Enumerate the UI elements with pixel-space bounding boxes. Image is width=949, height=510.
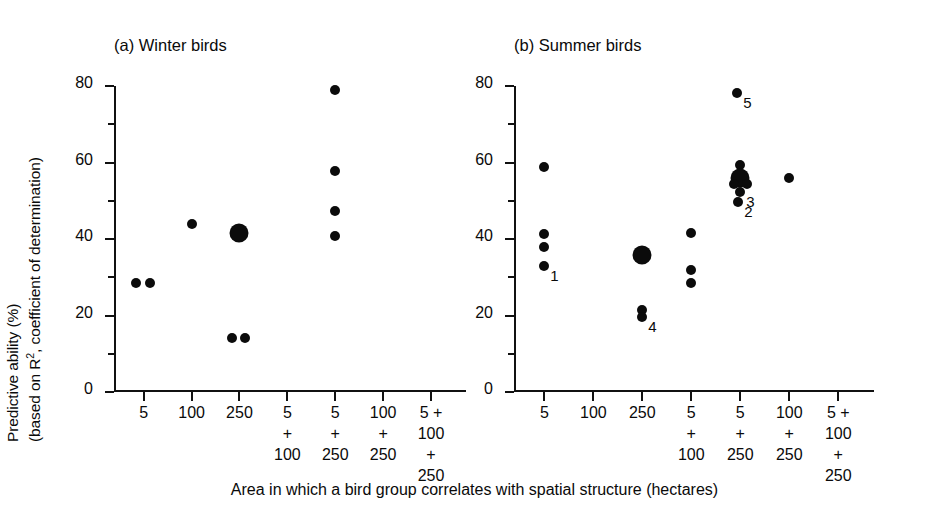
x-tick-winter-250 bbox=[238, 392, 240, 401]
x-tick-winter-5+100+250 bbox=[430, 392, 432, 401]
x-tick-label-line: 5 bbox=[678, 402, 705, 423]
x-tick-label-line: 250 bbox=[727, 444, 754, 465]
y-tick-winter-80: 80 bbox=[105, 85, 114, 87]
y-axis-line-summer bbox=[514, 86, 516, 392]
y-tick-summer-60: 60 bbox=[505, 162, 514, 164]
y-tick-minor-winter-50 bbox=[108, 200, 114, 202]
y-tick-winter-60: 60 bbox=[105, 162, 114, 164]
data-point bbox=[637, 312, 647, 322]
data-point-label: 4 bbox=[648, 319, 656, 334]
data-point bbox=[330, 206, 340, 216]
data-point-label: 5 bbox=[743, 94, 751, 109]
data-point bbox=[539, 242, 549, 252]
data-point bbox=[131, 278, 141, 288]
data-point bbox=[240, 333, 250, 343]
y-tick-minor-summer-10 bbox=[508, 353, 514, 355]
x-tick-summer-5 bbox=[543, 392, 545, 401]
data-point bbox=[145, 278, 155, 288]
x-tick-label-line: 5 bbox=[727, 402, 754, 423]
x-tick-label-line: 250 bbox=[776, 444, 803, 465]
x-tick-summer-5+250 bbox=[739, 392, 741, 401]
x-tick-label-line: + bbox=[678, 423, 705, 444]
data-point bbox=[784, 173, 794, 183]
x-tick-label-line: + bbox=[825, 444, 852, 465]
x-tick-winter-5 bbox=[143, 392, 145, 401]
data-point bbox=[539, 162, 549, 172]
x-tick-label-summer-100+250: 100+250 bbox=[776, 402, 803, 465]
x-tick-label-line: + bbox=[370, 423, 397, 444]
y-tick-label-winter-20: 20 bbox=[75, 305, 93, 321]
y-tick-summer-20: 20 bbox=[505, 315, 514, 317]
x-tick-label-line: + bbox=[727, 423, 754, 444]
x-tick-label-line: + bbox=[776, 423, 803, 444]
y-tick-label-winter-40: 40 bbox=[75, 228, 93, 244]
x-tick-label-line: 100 bbox=[825, 423, 852, 444]
x-tick-winter-5+100 bbox=[286, 392, 288, 401]
y-tick-label-summer-0: 0 bbox=[484, 381, 493, 397]
y-tick-minor-winter-10 bbox=[108, 353, 114, 355]
x-axis-line-winter bbox=[114, 390, 466, 392]
data-point bbox=[227, 333, 237, 343]
data-point bbox=[686, 265, 696, 275]
x-tick-label-line: 100 bbox=[580, 402, 607, 423]
x-tick-winter-100 bbox=[191, 392, 193, 401]
plot-area-winter: 02040608051002505+1005+250100+2505 +100+… bbox=[114, 86, 466, 392]
data-point bbox=[539, 261, 549, 271]
y-tick-winter-40: 40 bbox=[105, 238, 114, 240]
x-tick-label-line: 100 bbox=[370, 402, 397, 423]
x-tick-winter-100+250 bbox=[382, 392, 384, 401]
y-axis-title-line2-pre: (based on R bbox=[26, 359, 43, 442]
x-tick-label-line: 100 bbox=[418, 423, 445, 444]
x-tick-label-winter-100+250: 100+250 bbox=[370, 402, 397, 465]
y-tick-minor-summer-50 bbox=[508, 200, 514, 202]
y-tick-label-winter-0: 0 bbox=[84, 381, 93, 397]
x-tick-label-winter-5+100: 5+100 bbox=[274, 402, 301, 465]
x-tick-label-line: 250 bbox=[629, 402, 656, 423]
x-tick-label-line: 5 + bbox=[418, 402, 445, 423]
y-tick-winter-0: 0 bbox=[105, 391, 114, 393]
y-tick-minor-summer-30 bbox=[508, 276, 514, 278]
y-axis-title-line1: Predictive ability (%) bbox=[4, 12, 22, 442]
x-tick-label-summer-5+100: 5+100 bbox=[678, 402, 705, 465]
data-point bbox=[733, 197, 743, 207]
x-tick-summer-5+100+250 bbox=[837, 392, 839, 401]
data-point bbox=[686, 228, 696, 238]
plot-area-summer: 02040608051002505+1005+250100+2505 +100+… bbox=[514, 86, 874, 392]
data-point bbox=[330, 166, 340, 176]
x-tick-label-line: 100 bbox=[274, 444, 301, 465]
y-axis-title-line2: (based on R2, coefficient of determinati… bbox=[26, 12, 44, 442]
x-tick-label-line: 250 bbox=[322, 444, 349, 465]
figure-root: Predictive ability (%) (based on R2, coe… bbox=[0, 0, 949, 510]
y-tick-summer-0: 0 bbox=[505, 391, 514, 393]
data-point bbox=[539, 229, 549, 239]
data-point bbox=[187, 219, 197, 229]
x-tick-label-line: 5 bbox=[322, 402, 349, 423]
y-tick-minor-winter-30 bbox=[108, 276, 114, 278]
data-point bbox=[633, 246, 652, 265]
x-tick-label-line: 250 bbox=[370, 444, 397, 465]
y-tick-summer-80: 80 bbox=[505, 85, 514, 87]
x-tick-label-summer-5: 5 bbox=[540, 402, 549, 423]
x-axis-caption: Area in which a bird group correlates wi… bbox=[0, 481, 949, 499]
y-tick-label-summer-80: 80 bbox=[475, 75, 493, 91]
x-tick-summer-100+250 bbox=[788, 392, 790, 401]
data-point bbox=[742, 179, 752, 189]
data-point bbox=[686, 278, 696, 288]
x-tick-label-summer-5+100+250: 5 +100+250 bbox=[825, 402, 852, 486]
x-tick-label-summer-250: 250 bbox=[629, 402, 656, 423]
y-axis-title-line2-post: , coefficient of determination) bbox=[26, 157, 43, 353]
y-tick-summer-40: 40 bbox=[505, 238, 514, 240]
data-point bbox=[330, 231, 340, 241]
x-axis-line-summer bbox=[514, 390, 874, 392]
panel-title-summer: (b) Summer birds bbox=[514, 36, 641, 55]
x-tick-winter-5+250 bbox=[334, 392, 336, 401]
x-tick-label-line: 5 bbox=[540, 402, 549, 423]
x-tick-summer-250 bbox=[641, 392, 643, 401]
x-tick-summer-5+100 bbox=[690, 392, 692, 401]
x-tick-label-winter-5: 5 bbox=[139, 402, 148, 423]
y-axis-line-winter bbox=[114, 86, 116, 392]
data-point bbox=[230, 224, 249, 243]
y-tick-label-summer-20: 20 bbox=[475, 305, 493, 321]
panel-summer-birds: (b) Summer birds 02040608051002505+1005+… bbox=[492, 0, 949, 510]
x-tick-label-line: 5 bbox=[139, 402, 148, 423]
